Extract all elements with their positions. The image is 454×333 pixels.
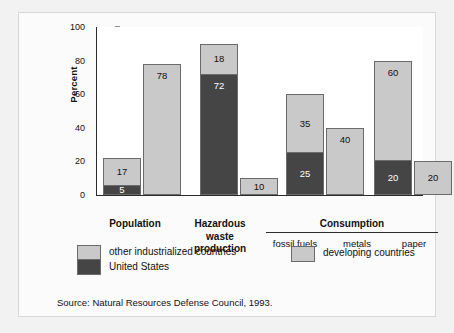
source-note: Source: Natural Resources Defense Counci… [57,297,272,308]
legend-label-other-industrialized: other industrialized countries [109,246,236,257]
y-tick-label-0: 0 [80,190,85,200]
bar-value-fossil-other: 35 [300,119,311,129]
y-tick-label-60: 60 [75,89,85,99]
bar-fossil-fuels-developing[interactable]: 40 [326,128,364,195]
bar-segment-fossil-united-states: 25 [287,153,323,194]
figure-card: Percent 100 80 60 40 20 0 [0,0,454,333]
bar-segment-fossil-other-industrialized: 35 [287,95,323,153]
bar-population-industrialized[interactable]: 17 5 [103,158,141,195]
bar-value-hazwaste-other: 18 [214,54,225,64]
bar-value-metals-us: 20 [388,173,399,183]
legend-label-united-states: United States [109,261,169,272]
group-label-population: Population [85,218,185,231]
bar-segment-population-united-states: 5 [104,186,140,194]
bar-value-population-us: 5 [119,185,124,195]
bar-segment-metals-united-states: 20 [375,161,411,194]
bar-value-hazwaste-us: 72 [214,81,225,91]
legend-swatch-industrialized-stack [77,245,101,275]
group-label-hazardous-waste-line2: waste [179,231,261,244]
bar-value-hazwaste-developing: 10 [254,182,265,192]
chart-plot-area: 17 5 78 18 [97,27,423,195]
figure-inner-panel: Percent 100 80 60 40 20 0 [18,12,436,317]
y-tick-label-80: 80 [75,56,85,66]
legend-item-united-states[interactable]: United States [109,261,169,272]
bar-value-fossil-us: 25 [300,169,311,179]
bar-segment-fossil-developing: 40 [327,129,363,194]
bar-segment-metals-other-industrialized: 60 [375,62,411,161]
bar-value-population-other: 17 [117,167,128,177]
y-axis-ticks: 100 80 60 40 20 0 [65,27,91,195]
bar-value-fossil-developing: 40 [340,135,351,145]
y-tick-label-100: 100 [70,22,85,32]
bar-value-metals-developing: 20 [428,173,439,183]
bar-segment-hazwaste-developing: 10 [241,179,277,194]
group-label-hazardous-waste-line1: Hazardous [179,218,261,231]
bar-metals-developing[interactable]: 20 [414,161,452,195]
bar-hazardous-waste-developing[interactable]: 10 [240,178,278,195]
legend-swatch-united-states [78,260,100,274]
bar-hazardous-waste-industrialized[interactable]: 18 72 [200,44,238,195]
bar-segment-hazwaste-other-industrialized: 18 [201,45,237,75]
y-tick-label-20: 20 [75,156,85,166]
bar-segment-hazwaste-united-states: 72 [201,75,237,194]
bar-value-metals-other: 60 [388,68,399,78]
legend-item-developing-countries[interactable]: developing countries [323,247,415,258]
bar-fossil-fuels-industrialized[interactable]: 35 25 [286,94,324,195]
legend-swatch-other-industrialized [78,246,100,260]
bar-segment-metals-developing: 20 [415,162,451,194]
bar-value-population-developing: 78 [157,71,168,81]
bar-segment-population-other-industrialized: 17 [104,159,140,186]
bar-segment-population-developing: 78 [144,65,180,194]
legend-swatch-developing-countries [291,246,315,262]
chart-plot-region: Percent 100 80 60 40 20 0 [41,27,423,217]
consumption-group-rule [266,232,438,233]
bar-metals-industrialized[interactable]: 60 20 [374,61,412,195]
bar-population-developing[interactable]: 78 [143,64,181,195]
group-label-consumption: Consumption [271,218,433,231]
y-tick-label-40: 40 [75,123,85,133]
chart-legend: other industrialized countries United St… [77,245,429,285]
legend-label-developing-countries: developing countries [323,247,415,258]
legend-item-other-industrialized[interactable]: other industrialized countries [109,246,236,257]
